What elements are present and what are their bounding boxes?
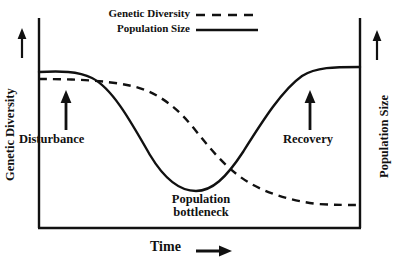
y-left-axis-arrow-icon [18,28,27,58]
legend-label-genetic-diversity: Genetic Diversity [92,8,190,20]
annotation-disturbance: Disturbance [19,133,84,146]
bottleneck-chart-figure: Genetic Diversity Population Size Geneti… [0,0,397,267]
x-axis-title: Time [150,240,181,255]
disturbance-arrow-icon [61,90,72,130]
annotation-bottleneck: Population bottleneck [151,193,251,219]
y-axis-right-title: Population Size [378,62,391,212]
population-size-curve [39,67,360,191]
y-right-axis-arrow-icon [373,30,382,60]
legend-label-population-size: Population Size [92,23,190,35]
annotation-bottleneck-line2: bottleneck [151,206,251,219]
y-axis-left-title: Genetic Diversity [4,60,17,210]
recovery-arrow-icon [305,90,316,130]
annotation-recovery: Recovery [283,133,333,146]
time-arrow-icon [196,245,232,256]
